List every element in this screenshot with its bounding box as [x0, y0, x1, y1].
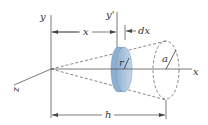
height-label: h: [105, 109, 111, 120]
cone-base: [153, 41, 179, 99]
cone-upper-edge: [51, 41, 166, 69]
disk-element: [111, 47, 132, 92]
dx-label: dx: [138, 25, 150, 36]
h-dimension-arrow-left: [52, 113, 58, 117]
base-radius-label: a: [162, 53, 168, 64]
cone-lower-edge: [51, 69, 166, 100]
y-axis-label: y: [39, 11, 46, 22]
x-axis-label: x: [193, 66, 199, 77]
h-dimension-arrow-right: [159, 113, 165, 117]
z-axis-label: z: [12, 86, 23, 93]
cone-disk-diagram: y y' x dx z x r a h: [0, 0, 208, 125]
dx-arrow: [126, 29, 132, 33]
y-prime-axis-label: y': [105, 9, 114, 20]
x-distance-label: x: [83, 26, 89, 37]
z-axis: [14, 69, 51, 85]
x-dimension-arrow-right: [110, 30, 116, 34]
